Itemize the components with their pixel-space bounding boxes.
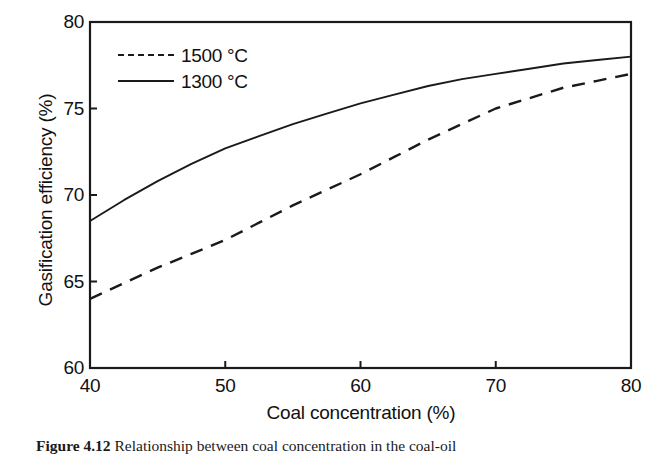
legend-item-1300c: 1300 °C xyxy=(118,70,248,92)
legend-item-1500c: 1500 °C xyxy=(118,44,248,66)
figure-caption-number: Figure 4.12 xyxy=(36,437,111,454)
x-tick-label-40: 40 xyxy=(60,376,120,395)
legend-label-1300c: 1300 °C xyxy=(181,72,248,91)
x-tick-label-50: 50 xyxy=(195,376,255,395)
legend-label-1500c: 1500 °C xyxy=(181,46,248,65)
x-tick-label-60: 60 xyxy=(331,376,391,395)
chart-legend: 1500 °C 1300 °C xyxy=(118,44,248,92)
figure-caption: Figure 4.12 Relationship between coal co… xyxy=(36,436,646,455)
y-tick-label-60: 60 xyxy=(44,358,84,377)
legend-solid-line-icon xyxy=(118,75,174,87)
y-axis-title: Gasification efficiency (%) xyxy=(35,50,57,350)
figure-caption-text: Relationship between coal concentration … xyxy=(115,437,457,454)
x-axis-title: Coal concentration (%) xyxy=(90,402,632,424)
legend-dashed-line-icon xyxy=(118,49,174,61)
x-tick-label-80: 80 xyxy=(601,376,660,395)
x-axis-tick-labels: 4050607080 xyxy=(0,376,660,404)
y-tick-label-80: 80 xyxy=(44,12,84,31)
x-tick-label-70: 70 xyxy=(466,376,526,395)
data-series-group xyxy=(90,57,631,299)
